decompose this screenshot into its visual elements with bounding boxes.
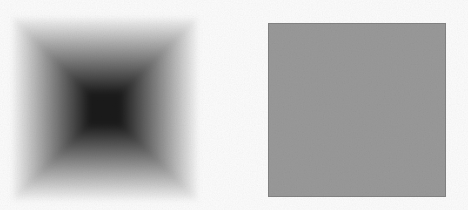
uniform-square-stimulus	[268, 23, 446, 197]
blurred-square-stimulus	[10, 15, 200, 203]
figure-canvas	[0, 0, 468, 210]
